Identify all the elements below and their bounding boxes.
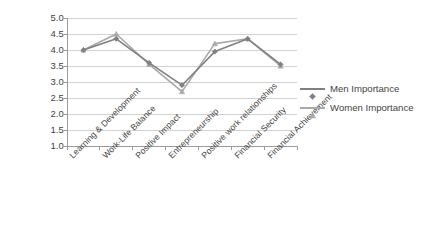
legend-item-women[interactable]: Women Importance [300, 98, 421, 117]
chart-legend: Men Importance Women Importance [300, 79, 421, 117]
legend-key-men-icon [300, 83, 325, 95]
legend-label-women: Women Importance [330, 102, 414, 113]
legend-key-women-icon [300, 102, 325, 114]
legend-label-men: Men Importance [330, 83, 399, 94]
legend-item-men[interactable]: Men Importance [300, 79, 421, 98]
chart-container: 5.04.54.03.53.02.52.01.51.0 Learning & D… [0, 0, 421, 252]
x-axis-category-labels: Learning & DevelopmentWork-Life BalanceP… [0, 0, 421, 252]
